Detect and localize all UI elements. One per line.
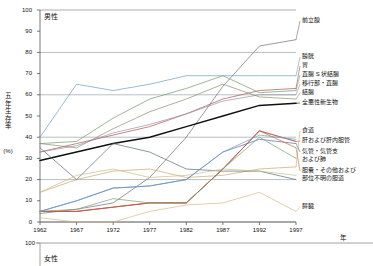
legend-colon: 結腸 <box>302 89 314 96</box>
data-lines <box>40 40 296 222</box>
legend-bladder: 膀胱 <box>302 53 314 60</box>
legend-rectum: 移行部・直腸 <box>302 80 338 87</box>
figure-root: 五年生存率 (%) 年 男性 女性 0102030405060708090100… <box>0 0 373 266</box>
y-tick-20: 20 <box>10 176 32 182</box>
x-tick-1997: 1997 <box>283 227 309 233</box>
x-tick-1982: 1982 <box>173 227 199 233</box>
legend-trachea-2: および肺 <box>302 156 326 163</box>
y-tick-90: 90 <box>10 28 32 34</box>
female-y-tick-100: 100 <box>13 240 35 246</box>
x-tick-1967: 1967 <box>64 227 90 233</box>
y-tick-10: 10 <box>10 197 32 203</box>
y-tick-80: 80 <box>10 49 32 55</box>
legend-leader-lines <box>296 21 300 211</box>
y-tick-30: 30 <box>10 155 32 161</box>
x-tick-1977: 1977 <box>137 227 163 233</box>
legend-prostate: 前立腺 <box>302 17 320 24</box>
legend-all-malignant: 全悪性新生物 <box>302 99 338 106</box>
y-tick-40: 40 <box>10 134 32 140</box>
x-tick-1962: 1962 <box>27 227 53 233</box>
x-tick-1987: 1987 <box>210 227 236 233</box>
legend-rectosigmoid: 直腸 S 状結腸 <box>302 71 339 78</box>
legend-pancreas: 膵臓 <box>302 203 314 210</box>
legend-stomach: 胃 <box>302 62 308 69</box>
y-tick-50: 50 <box>10 113 32 119</box>
legend-trachea-1: 気管・気管支 <box>302 148 338 155</box>
legend-gallbladder-1: 胆嚢・その他および <box>302 167 356 174</box>
y-tick-60: 60 <box>10 91 32 97</box>
y-tick-0: 0 <box>10 219 32 225</box>
y-tick-100: 100 <box>10 7 32 13</box>
legend-gallbladder-2: 部位不明の胆道 <box>302 175 344 182</box>
y-tick-70: 70 <box>10 70 32 76</box>
x-tick-1972: 1972 <box>100 227 126 233</box>
gridlines <box>40 10 296 222</box>
x-tick-1992: 1992 <box>246 227 272 233</box>
legend-esophagus: 食道 <box>302 127 314 134</box>
legend-liver: 肝および肝内胆管 <box>302 137 350 144</box>
male-chart: 五年生存率 (%) 年 男性 女性 0102030405060708090100… <box>0 0 373 266</box>
